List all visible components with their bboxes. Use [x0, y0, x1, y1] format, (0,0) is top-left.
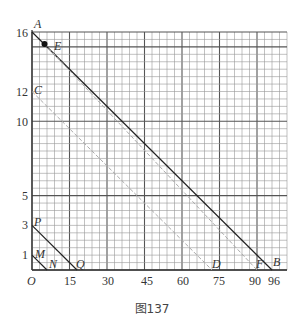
x-tick-96: 96 [268, 274, 280, 288]
x-tick-15: 15 [64, 274, 76, 288]
x-tick-45: 45 [141, 274, 153, 288]
y-tick-10: 10 [16, 115, 28, 129]
point-label-q: Q [76, 257, 85, 271]
origin-label: O [27, 274, 36, 288]
y-tick-1: 1 [22, 248, 28, 262]
x-tick-75: 75 [213, 274, 225, 288]
point-label-n: N [48, 257, 58, 271]
x-tick-90: 90 [249, 274, 261, 288]
y-tick-5: 5 [22, 189, 28, 203]
x-tick-30: 30 [102, 274, 114, 288]
point-e-dot [42, 41, 48, 47]
point-e-marker [42, 41, 48, 47]
point-label-c: C [34, 83, 43, 97]
point-label-b: B [273, 255, 281, 269]
point-label-m: M [34, 247, 46, 261]
point-label-p: P [33, 215, 42, 229]
y-tick-12: 12 [16, 85, 28, 99]
coordinate-diagram: O 15 30 45 60 75 90 96 1 3 5 10 12 16 A … [0, 0, 304, 300]
point-label-f: F [255, 257, 264, 271]
y-tick-3: 3 [22, 218, 28, 232]
grid [32, 32, 287, 270]
point-label-e: E [53, 39, 62, 53]
x-tick-60: 60 [177, 274, 189, 288]
figure-caption: 图137 [0, 299, 304, 316]
point-label-a: A [33, 17, 42, 31]
y-tick-16: 16 [16, 26, 28, 40]
point-label-d: D [211, 257, 221, 271]
segment-ef [45, 44, 258, 270]
